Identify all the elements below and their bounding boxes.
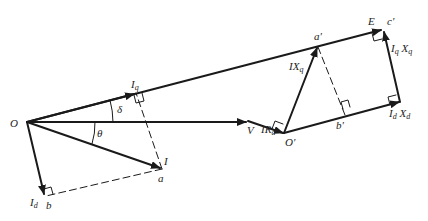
delta-arc bbox=[110, 100, 113, 122]
dashed-a-to-b bbox=[46, 169, 162, 196]
label-i: I bbox=[164, 156, 168, 167]
label-a: a bbox=[158, 173, 164, 184]
label-v: V bbox=[247, 125, 254, 136]
label-iqxq: Iq Xq bbox=[391, 43, 412, 56]
label-o: O bbox=[10, 118, 18, 129]
label-e: E bbox=[368, 16, 375, 27]
dashed-a-to-iq bbox=[136, 93, 162, 169]
label-c-prime: c′ bbox=[387, 16, 394, 27]
label-o-prime: O′ bbox=[285, 137, 295, 148]
i-phasor bbox=[27, 122, 160, 168]
right-angle-cprime bbox=[372, 33, 382, 41]
label-theta: θ bbox=[97, 128, 102, 139]
phasor-diagram bbox=[0, 0, 428, 221]
label-ixq: IXq bbox=[289, 61, 303, 74]
id-phasor bbox=[27, 122, 44, 194]
dashed-aprime-to-bprime bbox=[318, 47, 345, 115]
label-b: b bbox=[46, 200, 52, 211]
label-id: Id bbox=[30, 197, 38, 210]
label-idxd: Id Xd bbox=[389, 108, 410, 121]
label-b-prime: b′ bbox=[336, 120, 344, 131]
right-angle-b bbox=[44, 187, 53, 194]
label-delta: δ bbox=[117, 104, 122, 115]
right-angle-bprime bbox=[341, 100, 350, 109]
theta-arc bbox=[92, 122, 95, 144]
label-a-prime: a′ bbox=[314, 31, 322, 42]
label-iq: Iq bbox=[131, 79, 139, 92]
label-ira: IRa bbox=[261, 124, 275, 137]
